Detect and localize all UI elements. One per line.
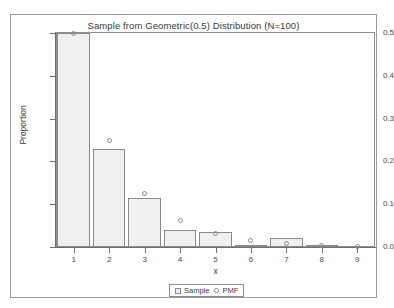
x-axis-tick-label: 8 (310, 255, 334, 264)
y-axis-tick (50, 33, 55, 34)
plot-area (56, 32, 375, 247)
chart-title: Sample from Geometric(0.5) Distribution … (10, 20, 377, 31)
x-axis-tick-label: 2 (97, 255, 121, 264)
y-axis-tick (50, 247, 55, 248)
legend-entry-pmf: PMF (214, 286, 238, 295)
y-axis-tick (50, 119, 55, 120)
y-axis-tick (50, 76, 55, 77)
x-axis-tick (216, 248, 217, 253)
pmf-marker (107, 138, 112, 143)
x-axis-tick-label: 1 (62, 255, 86, 264)
x-axis-tick-label: 6 (239, 255, 263, 264)
sample-bar (57, 33, 90, 247)
x-axis-tick-label: 7 (274, 255, 298, 264)
pmf-marker (284, 241, 289, 246)
sample-bar (93, 149, 126, 247)
x-axis-tick-label: 5 (204, 255, 228, 264)
chart-legend: Sample PMF (169, 284, 244, 297)
y-axis-tick (50, 161, 55, 162)
chart-canvas: Sample from Geometric(0.5) Distribution … (0, 0, 394, 308)
square-swatch-icon (175, 288, 181, 294)
x-axis-tick (145, 248, 146, 253)
legend-entry-sample: Sample (175, 286, 209, 295)
x-axis-tick (180, 248, 181, 253)
y-axis-title: Proportion (18, 85, 28, 165)
pmf-marker (355, 244, 360, 249)
sample-bar (235, 245, 268, 247)
y-axis-tick (50, 204, 55, 205)
circle-marker-icon (214, 288, 219, 293)
x-axis-tick (322, 248, 323, 253)
x-axis-tick (286, 248, 287, 253)
x-axis-tick-label: 3 (133, 255, 157, 264)
pmf-marker (142, 191, 147, 196)
pmf-marker (71, 31, 76, 36)
x-axis-tick (109, 248, 110, 253)
x-axis-title: x (56, 266, 375, 276)
x-axis-tick (251, 248, 252, 253)
pmf-marker (178, 218, 183, 223)
legend-label-pmf: PMF (222, 286, 238, 295)
sample-bar (164, 230, 197, 247)
x-axis-tick (357, 248, 358, 253)
x-axis-tick (74, 248, 75, 253)
legend-label-sample: Sample (184, 286, 209, 295)
x-axis-tick-label: 9 (345, 255, 369, 264)
x-axis-tick-label: 4 (168, 255, 192, 264)
sample-bar (128, 198, 161, 247)
pmf-marker (248, 238, 253, 243)
